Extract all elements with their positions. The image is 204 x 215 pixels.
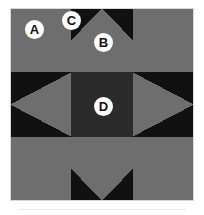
callout-badge-c: C xyxy=(62,11,81,30)
callout-badge-d: D xyxy=(94,97,113,116)
callout-badge-b: B xyxy=(94,33,113,52)
callout-badge-a: A xyxy=(25,20,44,39)
caption-divider xyxy=(18,209,186,210)
figure-root: A C B D xyxy=(0,0,204,215)
